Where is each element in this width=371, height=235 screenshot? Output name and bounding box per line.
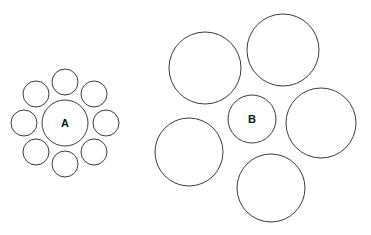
right-surround-circle-top-right [247,14,319,86]
center-circle-b-label: B [248,113,256,125]
right-surround-circle-bottom-left [155,118,223,186]
left-surround-circle-s [52,151,78,177]
left-surround-circle-ne [81,81,107,107]
right-cluster-group: B [155,14,356,222]
center-circle-a-label: A [61,117,69,129]
left-surround-circle-sw [23,139,49,165]
right-surround-circle-right [286,88,356,158]
ebbinghaus-illusion-figure: A B [0,0,371,235]
left-surround-circle-se [81,139,107,165]
left-surround-circle-e [93,110,119,136]
right-surround-circle-bottom [237,154,305,222]
right-surround-circle-top-left [169,32,241,104]
left-surround-circle-nw [23,81,49,107]
left-cluster-group: A [11,69,119,177]
figure-canvas: A B [0,0,371,235]
left-surround-circle-n [52,69,78,95]
left-surround-circle-w [11,110,37,136]
